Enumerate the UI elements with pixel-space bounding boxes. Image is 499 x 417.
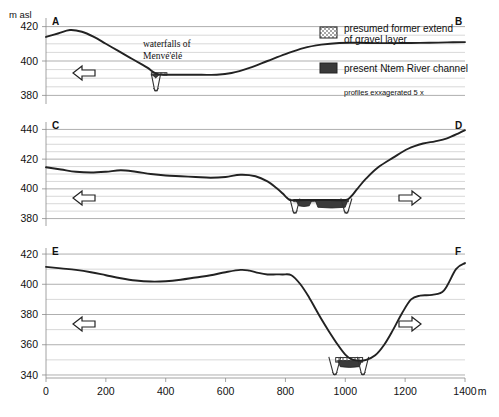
profile-endpoint-label-left: A — [52, 16, 59, 27]
gravel-stipple-swatch — [320, 27, 337, 38]
x-axis-tick-label: 1000 — [334, 385, 358, 397]
profile-endpoint-label-right: F — [455, 246, 461, 257]
x-axis-tick-label: 200 — [97, 385, 115, 397]
profile-endpoint-label-left: E — [52, 246, 59, 257]
x-axis-tick-label: 1400 — [453, 385, 477, 397]
y-axis-tick-label: 420 — [20, 153, 38, 165]
x-axis-tick-label: 600 — [217, 385, 235, 397]
y-axis-unit-label: m asl — [9, 9, 32, 20]
figure-canvas: 380400420AB380400420440CD340360380400420… — [0, 0, 499, 417]
legend-item-0-line1: presumed former extend — [344, 23, 453, 34]
y-axis-tick-label: 360 — [20, 338, 38, 350]
y-axis-tick-label: 380 — [20, 212, 38, 224]
x-axis-tick-label: 0 — [43, 385, 49, 397]
legend-note: profiles exxagerated 5 x — [344, 88, 424, 97]
profile-endpoint-label-left: C — [52, 120, 59, 131]
annotation-line2: Menvé'élé — [143, 51, 182, 61]
y-axis-tick-label: 400 — [20, 182, 38, 194]
y-axis-tick-label: 440 — [20, 123, 38, 135]
x-axis-tick-label: 400 — [157, 385, 175, 397]
y-axis-tick-label: 380 — [20, 89, 38, 101]
y-axis-tick-label: 340 — [20, 369, 38, 381]
valley-cross-section-figure: 380400420AB380400420440CD340360380400420… — [0, 0, 499, 417]
x-axis-unit-label: m — [478, 385, 487, 397]
y-axis-tick-label: 380 — [20, 308, 38, 320]
annotation-line1: waterfalls of — [143, 39, 192, 49]
legend-item-1-line1: present Ntem River channel — [344, 63, 468, 74]
x-axis-tick-label: 800 — [277, 385, 295, 397]
channel-dark-swatch — [320, 63, 337, 73]
profile-endpoint-label-right: D — [455, 120, 462, 131]
legend-item-0-line2: of gravel layer — [344, 34, 407, 45]
y-axis-tick-label: 420 — [20, 248, 38, 260]
y-axis-tick-label: 400 — [20, 278, 38, 290]
y-axis-tick-label: 420 — [20, 20, 38, 32]
x-axis-tick-label: 1200 — [393, 385, 417, 397]
y-axis-tick-label: 400 — [20, 55, 38, 67]
profile-endpoint-label-right: B — [455, 16, 462, 27]
